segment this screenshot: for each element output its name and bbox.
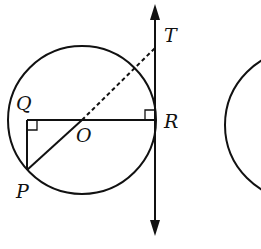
arrow-down-icon bbox=[150, 220, 160, 236]
second-circle-partial bbox=[225, 50, 261, 200]
right-angle-marker-r bbox=[145, 110, 155, 120]
label-q: Q bbox=[16, 92, 32, 114]
arrow-up-icon bbox=[150, 4, 160, 20]
label-p: P bbox=[15, 180, 30, 202]
right-angle-marker-q bbox=[27, 120, 37, 130]
label-r: R bbox=[163, 110, 178, 132]
segment-po bbox=[27, 120, 82, 170]
segment-ot-dashed bbox=[82, 48, 155, 120]
label-o: O bbox=[76, 124, 92, 146]
label-t: T bbox=[164, 24, 178, 46]
geometry-diagram: T Q O R P bbox=[0, 0, 261, 249]
